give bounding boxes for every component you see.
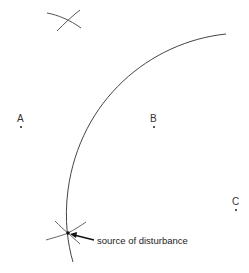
point-b-dot [153,126,155,128]
point-c-label: C [232,197,239,207]
diagram-canvas [0,0,249,273]
arrow-line [74,235,94,240]
arrow-head [70,232,77,238]
arc-from-b [66,34,226,262]
top-intersection-arc-2 [57,10,80,31]
point-a-dot [20,126,22,128]
source-point [66,231,70,235]
source-caption: source of disturbance [97,236,188,246]
point-b-label: B [150,114,157,124]
point-a-label: A [17,114,24,124]
top-intersection-arc-1 [47,13,81,28]
point-c-dot [235,209,237,211]
